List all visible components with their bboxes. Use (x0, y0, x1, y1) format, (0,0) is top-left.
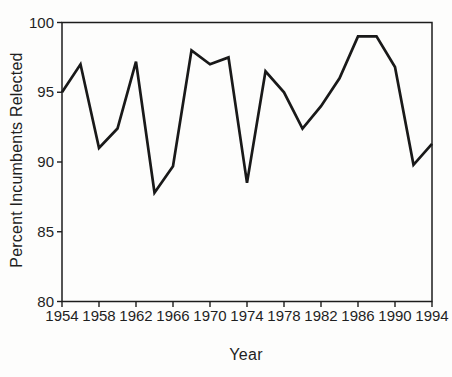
y-axis-title: Percent Incumbents Relected (8, 52, 26, 267)
x-axis-tick-label: 1966 (156, 307, 189, 324)
chart-svg: 1009590858019541958196219661970197419781… (0, 0, 452, 377)
x-axis-tick-label: 1994 (415, 307, 448, 324)
figure: 1009590858019541958196219661970197419781… (0, 0, 452, 377)
x-axis-title: Year (229, 346, 263, 364)
x-axis-tick-label: 1978 (267, 307, 300, 324)
x-axis-tick-label: 1990 (378, 307, 411, 324)
x-axis-tick-label: 1982 (304, 307, 337, 324)
x-axis-tick-label: 1958 (82, 307, 115, 324)
plot-border (62, 23, 432, 302)
x-axis-tick-label: 1986 (341, 307, 374, 324)
x-axis-tick-label: 1974 (230, 307, 263, 324)
y-axis-tick-label: 85 (37, 223, 54, 240)
y-axis-tick-label: 95 (37, 83, 54, 100)
y-axis-tick-label: 90 (37, 153, 54, 170)
data-line (62, 36, 432, 192)
x-axis-tick-label: 1970 (193, 307, 226, 324)
x-axis-tick-label: 1954 (45, 307, 78, 324)
y-axis-tick-label: 100 (29, 14, 54, 31)
x-axis-tick-label: 1962 (119, 307, 152, 324)
